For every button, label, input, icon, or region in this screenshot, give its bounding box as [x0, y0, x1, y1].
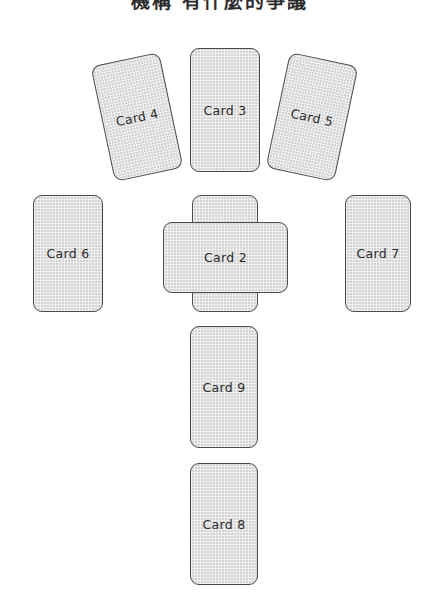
page-title: 機構 有什麼的爭議	[0, 0, 439, 13]
card-9[interactable]: Card 9	[190, 326, 258, 448]
card-7[interactable]: Card 7	[345, 195, 411, 312]
card-8[interactable]: Card 8	[190, 463, 258, 585]
card-4-label: Card 4	[114, 105, 159, 129]
tarot-spread-diagram: 機構 有什麼的爭議 Card 6 Card 4 Card 3 Card 5 Ca…	[0, 0, 439, 609]
card-4[interactable]: Card 4	[90, 52, 183, 182]
card-2-label: Card 2	[204, 250, 247, 265]
card-9-label: Card 9	[203, 380, 246, 395]
card-3-label: Card 3	[204, 103, 247, 118]
card-6[interactable]: Card 6	[33, 195, 103, 312]
card-3[interactable]: Card 3	[190, 48, 260, 172]
card-8-label: Card 8	[203, 517, 246, 532]
card-2[interactable]: Card 2	[163, 222, 288, 293]
card-5-label: Card 5	[289, 105, 334, 129]
card-7-label: Card 7	[357, 246, 400, 261]
card-6-label: Card 6	[47, 246, 90, 261]
card-5[interactable]: Card 5	[265, 52, 358, 182]
